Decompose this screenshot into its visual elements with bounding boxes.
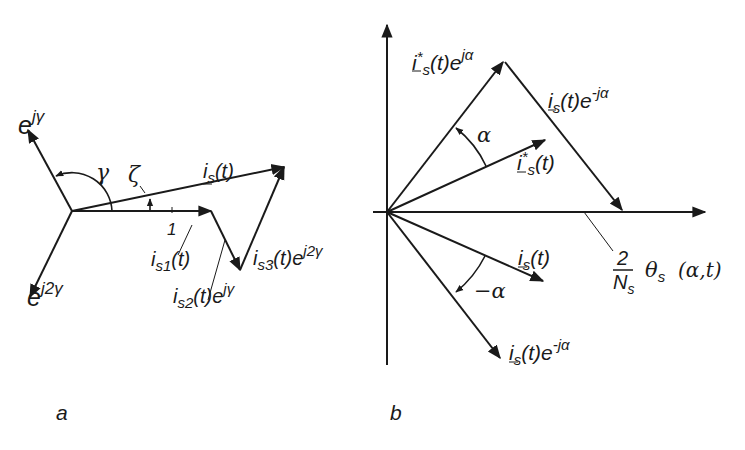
label-gamma: γ — [96, 160, 110, 185]
label-e-j2gamma: ej2γ — [27, 279, 64, 311]
label-theta: 2 Ns θs (α,t) — [613, 247, 722, 297]
leader-theta — [584, 212, 613, 251]
label-zeta: ζ — [128, 162, 142, 187]
label-is-t-b: is(t) — [518, 246, 550, 273]
panel-a: ejγ ej2γ γ ζ 1 is(t) is1(t) is2(t)ejγ is… — [18, 107, 324, 424]
label-neg-alpha: −α — [474, 279, 506, 303]
label-is3-t: is3(t)ej2γ — [253, 242, 324, 273]
label-e-jgamma: ejγ — [18, 107, 46, 139]
label-is-e-neg-jalpha-bottom: is(t)e-jα — [509, 336, 570, 368]
label-alpha: α — [477, 123, 491, 147]
label-istar-e-jalpha: i*s(t)ejα — [412, 46, 474, 78]
label-is-e-neg-jalpha-top: is(t)e-jα — [548, 84, 609, 116]
leader-zeta — [140, 186, 145, 193]
caption-b: b — [390, 401, 402, 424]
vector-is2 — [211, 211, 240, 270]
label-is2-t: is2(t)ejγ — [173, 280, 236, 311]
theta-numerator: 2 — [616, 247, 628, 269]
label-unit: 1 — [167, 220, 176, 239]
label-is1-t: is1(t) — [151, 248, 190, 274]
axis-e-jgamma — [28, 130, 72, 211]
theta-symbol: θs — [645, 258, 666, 285]
label-istar-t: i*s(t) — [517, 148, 555, 178]
caption-a: a — [56, 401, 68, 424]
panel-b: i*s(t)ejα is(t)e-jα α i*s(t) is(t) −α is… — [373, 25, 722, 424]
figure-canvas: ejγ ej2γ γ ζ 1 is(t) is1(t) is2(t)ejγ is… — [0, 0, 745, 450]
vector-diagram: ejγ ej2γ γ ζ 1 is(t) is1(t) is2(t)ejγ is… — [0, 0, 745, 450]
theta-denominator: Ns — [613, 271, 634, 297]
theta-args: (α,t) — [678, 258, 722, 282]
label-is-t: is(t) — [203, 160, 234, 186]
